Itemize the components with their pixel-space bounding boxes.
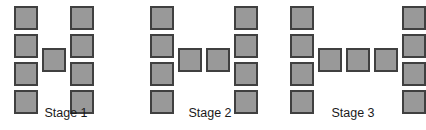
stage-pattern xyxy=(140,0,280,104)
square-right-col-3 xyxy=(70,62,94,86)
square-middle-bar-1 xyxy=(318,48,342,72)
square-middle-bar-1 xyxy=(178,48,202,72)
stage-pattern xyxy=(284,0,422,104)
stage-group: Stage 1 xyxy=(0,0,132,130)
square-left-col-2 xyxy=(290,34,314,58)
stage-label: Stage 3 xyxy=(284,106,422,120)
square-left-col-1 xyxy=(290,6,314,30)
stage-label: Stage 2 xyxy=(140,106,280,120)
square-right-col-3 xyxy=(234,62,258,86)
square-left-col-2 xyxy=(14,34,38,58)
square-right-col-2 xyxy=(234,34,258,58)
square-right-col-1 xyxy=(234,6,258,30)
square-middle-bar-2 xyxy=(346,48,370,72)
stage-label: Stage 1 xyxy=(0,106,132,120)
square-right-col-2 xyxy=(70,34,94,58)
square-middle-bar-3 xyxy=(374,48,398,72)
stage-group: Stage 3 xyxy=(284,0,422,130)
square-right-col-1 xyxy=(402,6,426,30)
square-right-col-3 xyxy=(402,62,426,86)
square-left-col-3 xyxy=(290,62,314,86)
square-left-col-2 xyxy=(150,34,174,58)
square-left-col-3 xyxy=(150,62,174,86)
square-left-col-1 xyxy=(150,6,174,30)
square-left-col-1 xyxy=(14,6,38,30)
stage-group: Stage 2 xyxy=(140,0,280,130)
square-middle-bar-2 xyxy=(206,48,230,72)
square-middle-bar-1 xyxy=(42,48,66,72)
square-right-col-2 xyxy=(402,34,426,58)
stage-pattern xyxy=(0,0,132,104)
square-left-col-3 xyxy=(14,62,38,86)
square-right-col-1 xyxy=(70,6,94,30)
